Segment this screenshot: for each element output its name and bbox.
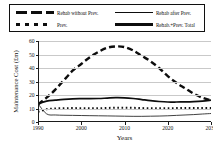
y-tick-label: 20 bbox=[29, 92, 35, 98]
legend-entry-rehab-after-prev: Rehab after Prev. bbox=[113, 8, 204, 17]
y-tick-label: 30 bbox=[29, 79, 35, 85]
y-tick bbox=[36, 82, 39, 83]
x-tick-label: 1990 bbox=[32, 125, 43, 131]
x-tick-label: 2030 bbox=[205, 125, 213, 131]
series-line-rehab-prev-total bbox=[38, 98, 211, 104]
legend-swatch-dashed-thick-icon bbox=[15, 8, 55, 17]
y-tick bbox=[36, 68, 39, 69]
legend-label-rehab-prev-total: Rehab.+Prev. Total bbox=[156, 22, 195, 28]
y-tick-label: 50 bbox=[29, 52, 35, 58]
legend-label-rehab-without-prev: Rehab without Prev. bbox=[57, 10, 98, 16]
y-tick-label: 40 bbox=[29, 65, 35, 71]
y-tick bbox=[36, 109, 39, 110]
x-tick-label: 2010 bbox=[119, 125, 130, 131]
legend-label-rehab-after-prev: Rehab after Prev. bbox=[156, 10, 191, 16]
chart-legend: Rehab without Prev. Rehab after Prev. Pr… bbox=[9, 4, 205, 32]
legend-entry-prev: Prev. bbox=[10, 20, 113, 29]
legend-entry-rehab-prev-total: Rehab.+Prev. Total bbox=[113, 20, 204, 29]
x-axis-title: Years bbox=[38, 134, 211, 142]
gridline bbox=[38, 95, 211, 96]
legend-swatch-dotted-icon bbox=[15, 20, 55, 29]
x-tick-label: 2000 bbox=[76, 125, 87, 131]
x-tick-label: 2020 bbox=[162, 125, 173, 131]
legend-swatch-solid-thin-icon bbox=[114, 8, 154, 17]
y-tick bbox=[36, 41, 39, 42]
chart-figure: Rehab without Prev. Rehab after Prev. Pr… bbox=[0, 0, 213, 150]
legend-label-prev: Prev. bbox=[57, 22, 67, 28]
y-tick bbox=[36, 55, 39, 56]
gridline bbox=[38, 55, 211, 56]
y-tick-label: 10 bbox=[29, 106, 35, 112]
legend-row-2: Prev. Rehab.+Prev. Total bbox=[10, 18, 204, 31]
gridline bbox=[38, 41, 211, 42]
plot-area: 6050403020100 19902000201020202030 bbox=[38, 41, 211, 122]
y-axis-title: Maintenance Cost (£m) bbox=[10, 41, 22, 122]
gridline bbox=[38, 82, 211, 83]
gridline bbox=[38, 109, 211, 110]
y-tick bbox=[36, 95, 39, 96]
series-line-rehab-after-prev bbox=[38, 104, 211, 117]
y-tick-label: 60 bbox=[29, 38, 35, 44]
legend-entry-rehab-without-prev: Rehab without Prev. bbox=[10, 8, 113, 17]
gridline bbox=[38, 68, 211, 69]
legend-swatch-solid-thick-icon bbox=[114, 20, 154, 29]
